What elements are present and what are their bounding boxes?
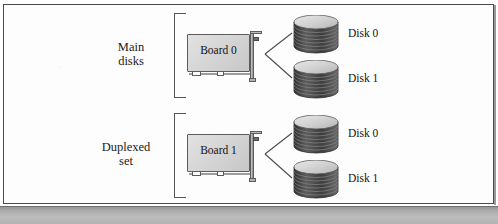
- board-label: Board 0: [187, 44, 250, 56]
- figure-frame: Main disks Board 0: [3, 4, 494, 204]
- disk-label-1: Disk 1: [348, 172, 378, 184]
- board-card-0: Board 0: [187, 31, 263, 78]
- group-label-duplexed-set: Duplexed set: [82, 141, 170, 168]
- board-edge-notch: [192, 172, 201, 176]
- disk-label-0: Disk 0: [348, 27, 378, 39]
- disk-stack-1: [292, 160, 340, 200]
- bracket-port-connector: [253, 37, 259, 41]
- group-duplexed-set: Duplexed set Board 1: [4, 105, 495, 205]
- board-label: Board 1: [187, 144, 250, 156]
- group-bracket-main: [174, 13, 186, 98]
- group-label-line2: set: [82, 155, 170, 169]
- bracket-port-connector: [253, 137, 259, 141]
- disk-stack-0: [292, 115, 340, 155]
- scan-page-edge: [0, 206, 498, 224]
- disk-label-0: Disk 0: [348, 127, 378, 139]
- board-edge-notch: [217, 72, 224, 76]
- group-main-disks: Main disks Board 0: [4, 5, 495, 105]
- disk-stack-1: [292, 60, 340, 100]
- figure-frame-shadow: [494, 5, 496, 205]
- figure-page: Main disks Board 0: [0, 0, 498, 224]
- group-label-line2: disks: [92, 55, 170, 69]
- group-label-line1: Main: [118, 40, 144, 54]
- board-edge-notch: [192, 72, 201, 76]
- group-label-main-disks: Main disks: [92, 41, 170, 68]
- bracket-bottom-tab: [249, 78, 256, 82]
- board-edge-notch: [217, 172, 224, 176]
- bracket-top-tab: [250, 31, 262, 34]
- bracket-bottom-tab: [249, 178, 256, 182]
- group-bracket-duplexed: [174, 113, 186, 198]
- bracket-top-tab: [250, 131, 262, 134]
- board-card-1: Board 1: [187, 131, 263, 178]
- group-label-line1: Duplexed: [102, 140, 151, 154]
- disk-label-1: Disk 1: [348, 72, 378, 84]
- disk-stack-0: [292, 15, 340, 55]
